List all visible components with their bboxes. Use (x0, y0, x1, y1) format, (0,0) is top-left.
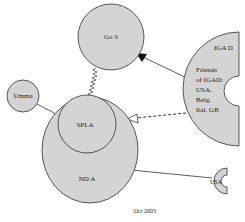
node-igad-label: IGA D (214, 44, 233, 52)
actor-diagram: Go S Umma ND A SPLA IGA D Friends of IGA… (0, 0, 245, 222)
node-gos-label: Go S (104, 33, 118, 41)
node-usa-label: USA (210, 179, 223, 185)
node-igad: IGA D Friends of IGAD: USA, Belg. Ital. … (183, 32, 239, 146)
node-igad-subline-3: Belg. (196, 96, 211, 104)
edge-igad-gos (143, 57, 191, 80)
node-spla: SPLA (58, 95, 116, 153)
node-spla-label: SPLA (76, 121, 93, 129)
edge-umma-nda (37, 104, 56, 114)
node-igad-subline-2: USA, (196, 86, 212, 94)
edge-nda-usa (131, 170, 212, 178)
node-igad-subline-1: of IGAD: (196, 76, 223, 84)
edge-igad-spla-dashed (136, 112, 196, 118)
node-usa: USA (210, 168, 227, 194)
node-gos: Go S (78, 4, 144, 70)
node-umma: Umma (7, 80, 39, 112)
node-igad-subline-0: Friends (196, 66, 217, 74)
node-nda-label: ND A (79, 175, 96, 183)
edge-gos-spla-zigzag (88, 68, 97, 96)
diagram-caption: Oct 2003 (134, 208, 156, 214)
node-igad-subline-4: Ital. GB (196, 106, 219, 114)
node-umma-label: Umma (13, 92, 33, 100)
